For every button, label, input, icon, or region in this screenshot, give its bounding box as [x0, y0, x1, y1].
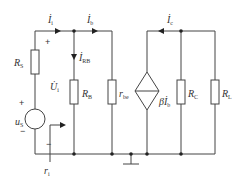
junction-dot: [72, 152, 76, 156]
plus-sign-Ui: +: [45, 37, 50, 47]
label-RL: RL: [221, 88, 232, 100]
label-CCCS: βİb: [158, 96, 170, 108]
resistor-RL: [211, 80, 219, 104]
label-RB: RB: [81, 88, 92, 100]
junction-dot: [179, 29, 183, 33]
arrow-IRB-icon: [71, 54, 77, 60]
label-ri: ri: [44, 165, 50, 177]
label-RC: RC: [187, 88, 198, 100]
resistor-RS: [31, 50, 39, 74]
plus-sign-uS: +: [19, 98, 24, 108]
label-Ib: İb: [86, 14, 93, 26]
minus-sign-uS: −: [20, 126, 25, 136]
resistor-RB: [70, 80, 78, 104]
arrow-ri-icon: [60, 122, 66, 128]
label-Ic: İc: [166, 14, 173, 26]
label-rbe: rbe: [119, 88, 129, 100]
label-Ui: U̇i: [50, 81, 59, 93]
arrow-Ib-icon: [92, 28, 98, 34]
label-RS: RS: [13, 57, 23, 69]
resistor-RC: [177, 80, 185, 104]
junction-dot: [110, 152, 114, 156]
label-IRB: İRB: [78, 52, 90, 64]
label-Ii: İi: [47, 14, 53, 26]
resistor-rbe: [108, 80, 116, 104]
junction-dot: [179, 152, 183, 156]
voltage-source-uS: [25, 109, 45, 129]
arrow-Ic-icon: [158, 28, 164, 34]
arrow-Ii-icon: [55, 28, 61, 34]
junction-dot: [72, 29, 76, 33]
circuit-diagram: RS RB rbe βİb RC RL uS İi İb İRB İc U̇i …: [0, 0, 245, 186]
junction-dot: [145, 152, 149, 156]
minus-sign-Ui: −: [46, 139, 51, 149]
junction-dot: [129, 152, 133, 156]
